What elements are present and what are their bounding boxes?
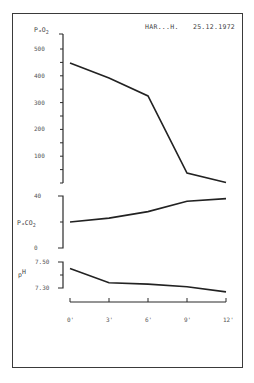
paco2-panel: PₐCO2 400 (17, 192, 226, 251)
pao2-tick-label: 200 (34, 125, 45, 132)
paco2-series-line (70, 199, 226, 222)
pao2-axis-title: PₐO2 (34, 26, 49, 35)
paco2-axis-title: PₐCO2 (17, 219, 36, 228)
pao2-tick-label: 500 (34, 45, 45, 52)
time-tick-label: 9' (184, 316, 191, 323)
ph-axis-title: pH (18, 268, 26, 279)
time-tick-labels: 0'3'6'9'12' (67, 316, 234, 323)
time-tick-label: 3' (106, 316, 113, 323)
pao2-tick-label: 300 (34, 99, 45, 106)
ph-panel: pH 7.507.30 (18, 258, 226, 292)
ph-series-line (70, 269, 226, 292)
pao2-tick-label: 100 (34, 152, 45, 159)
ph-tick-label: 7.30 (35, 284, 50, 291)
time-axis: 0'3'6'9'12' (67, 298, 234, 323)
pao2-panel: PₐO2 500400300200100 (34, 26, 226, 183)
pao2-tick-label: 400 (34, 72, 45, 79)
pao2-series-line (70, 63, 226, 183)
time-tick-label: 0' (67, 316, 74, 323)
paco2-tick-label: 40 (34, 192, 42, 199)
paco2-tick-label: 0 (34, 244, 38, 251)
time-tick-label: 6' (145, 316, 152, 323)
time-tick-label: 12' (223, 316, 234, 323)
pao2-tick-labels: 500400300200100 (34, 45, 45, 159)
ph-tick-label: 7.50 (35, 258, 50, 265)
ph-tick-labels: 7.507.30 (35, 258, 50, 291)
blood-gas-chart: PₐO2 500400300200100 PₐCO2 400 pH 7.507.… (0, 0, 254, 383)
